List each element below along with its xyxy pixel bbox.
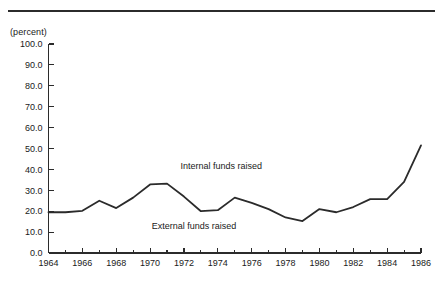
data-series-group <box>49 145 422 221</box>
x-axis: 1964196619681970197219741976197819801982… <box>38 248 431 268</box>
line-chart-plot: 0.010.020.030.040.050.060.070.080.090.01… <box>0 0 443 281</box>
y-axis-tick-label: 40.0 <box>25 165 43 175</box>
y-axis-tick-label: 80.0 <box>25 81 43 91</box>
x-axis-tick-label: 1982 <box>343 258 363 268</box>
y-axis-tick-label: 30.0 <box>25 186 43 196</box>
y-axis-tick-label: 50.0 <box>25 144 43 154</box>
chart-figure: (percent) 0.010.020.030.040.050.060.070.… <box>0 0 443 281</box>
y-axis-tick-label: 100.0 <box>20 39 43 49</box>
y-axis-tick-label: 20.0 <box>25 206 43 216</box>
x-axis-tick-label: 1976 <box>242 258 262 268</box>
y-axis-tick-label: 10.0 <box>25 227 43 237</box>
series-annotation-label: External funds raised <box>152 221 237 231</box>
y-axis-tick-label: 0.0 <box>30 248 43 258</box>
series-annotation-label: Internal funds raised <box>180 161 262 171</box>
y-axis: 0.010.020.030.040.050.060.070.080.090.01… <box>20 39 54 258</box>
x-axis-tick-label: 1972 <box>174 258 194 268</box>
x-axis-tick-label: 1978 <box>276 258 296 268</box>
x-axis-tick-label: 1964 <box>38 258 58 268</box>
data-series-line <box>49 145 422 221</box>
x-axis-tick-label: 1986 <box>411 258 431 268</box>
y-axis-tick-label: 60.0 <box>25 123 43 133</box>
series-annotations: Internal funds raisedExternal funds rais… <box>152 161 262 231</box>
x-axis-tick-label: 1984 <box>377 258 397 268</box>
x-axis-tick-label: 1970 <box>140 258 160 268</box>
y-axis-tick-label: 90.0 <box>25 60 43 70</box>
x-axis-tick-label: 1968 <box>106 258 126 268</box>
x-axis-tick-label: 1980 <box>309 258 329 268</box>
y-axis-tick-label: 70.0 <box>25 102 43 112</box>
x-axis-tick-label: 1974 <box>208 258 228 268</box>
x-axis-tick-label: 1966 <box>72 258 92 268</box>
